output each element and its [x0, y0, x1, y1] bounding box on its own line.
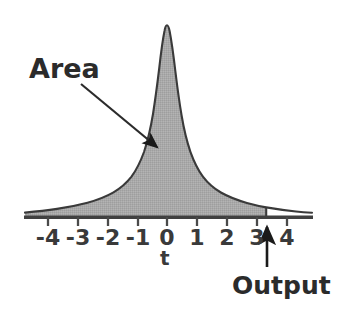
x-tick-label-1: 1 — [189, 225, 204, 250]
x-tick-label-3: 3 — [249, 225, 264, 250]
x-tick-label-neg1: -1 — [126, 225, 150, 250]
t-distribution-area-figure: -4 -3 -2 -1 0 1 2 3 4 Area Output t — [0, 0, 337, 321]
x-tick-label-neg2: -2 — [96, 225, 120, 250]
area-leader-arrow — [81, 84, 157, 147]
x-tick-label-neg3: -3 — [66, 225, 90, 250]
x-tick-label-4: 4 — [279, 225, 294, 250]
output-annotation-label: Output — [232, 271, 331, 300]
x-tick-label-neg4: -4 — [36, 225, 60, 250]
x-tick-label-2: 2 — [219, 225, 234, 250]
x-axis-variable-label: t — [160, 246, 170, 270]
area-annotation-label: Area — [29, 53, 100, 84]
